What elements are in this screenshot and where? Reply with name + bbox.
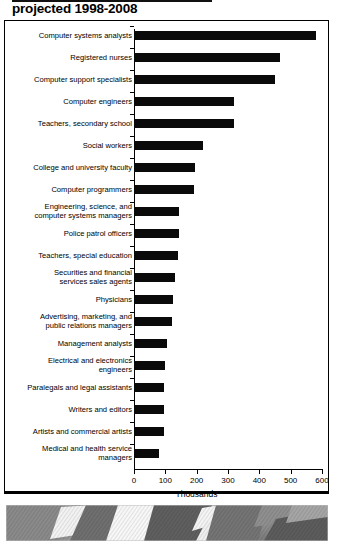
bar [134, 119, 234, 128]
bar [134, 229, 179, 238]
bar-category-label: Computer support specialists [34, 76, 132, 85]
bar-category-label: Computer programmers [51, 186, 132, 195]
bar-category-label: Artists and commercial artists [33, 428, 132, 437]
bar-category-label: Electrical and electronics engineers [48, 357, 132, 374]
bar [134, 427, 164, 436]
x-axis-tick [197, 469, 198, 474]
bar-category-label: Writers and editors [68, 406, 132, 415]
bar [134, 449, 159, 458]
bar [134, 339, 167, 348]
y-axis-tick [130, 180, 134, 181]
bar [134, 185, 194, 194]
bar-category-label: Computer systems analysts [39, 32, 132, 41]
y-axis-tick [130, 224, 134, 225]
x-axis-tick [322, 469, 323, 474]
bar-category-label: Medical and health service managers [42, 445, 132, 462]
y-axis-tick [130, 378, 134, 379]
bar [134, 405, 164, 414]
page-title: projected 1998-2008 [12, 1, 137, 16]
bar-chart-plot: Computer systems analystsRegistered nurs… [5, 21, 328, 492]
x-axis-tick-label: 600 [302, 476, 337, 485]
y-axis-tick [130, 26, 134, 27]
y-axis-tick [130, 136, 134, 137]
y-axis-tick [130, 158, 134, 159]
bar-category-label: Teachers, secondary school [38, 120, 132, 129]
bar-category-label: Engineering, science, and computer syste… [35, 203, 133, 220]
x-axis-tick [259, 469, 260, 474]
bar-category-label: Physicians [96, 296, 132, 305]
bar [134, 273, 175, 282]
chart-container: Computer systems analystsRegistered nurs… [4, 20, 329, 493]
y-axis-tick [130, 290, 134, 291]
y-axis-tick [130, 114, 134, 115]
x-axis-tick [165, 469, 166, 474]
bar-category-label: Advertising, marketing, and public relat… [40, 313, 132, 330]
bar [134, 75, 275, 84]
bar [134, 207, 179, 216]
bar [134, 295, 173, 304]
flag-icon [6, 505, 328, 541]
y-axis-tick [130, 70, 134, 71]
bar-category-label: College and university faculty [33, 164, 132, 173]
bar-category-label: Police patrol officers [64, 230, 132, 239]
bar-category-label: Social workers [83, 142, 132, 151]
bar [134, 163, 195, 172]
bar-category-label: Paralegals and legal assistants [27, 384, 132, 393]
bar [134, 31, 316, 40]
y-axis-tick [130, 48, 134, 49]
x-axis-tick [134, 469, 135, 474]
y-axis-tick [130, 422, 134, 423]
bar-category-label: Registered nurses [70, 54, 132, 63]
x-axis-tick [291, 469, 292, 474]
y-axis-tick [130, 400, 134, 401]
y-axis-tick [130, 334, 134, 335]
bar [134, 53, 280, 62]
y-axis-tick [130, 92, 134, 93]
chart-bottom-rule [4, 491, 329, 494]
bar-category-label: Securities and financial services sales … [54, 269, 132, 286]
y-axis-line [134, 29, 135, 469]
bar [134, 361, 165, 370]
american-flag-image [6, 505, 328, 541]
bar [134, 383, 164, 392]
bar-category-label: Computer engineers [63, 98, 132, 107]
bar [134, 97, 234, 106]
bar [134, 317, 172, 326]
bar [134, 141, 203, 150]
bar [134, 251, 178, 260]
x-axis-tick [228, 469, 229, 474]
bar-category-label: Teachers, special education [38, 252, 132, 261]
y-axis-tick [130, 246, 134, 247]
bar-category-label: Management analysts [58, 340, 132, 349]
